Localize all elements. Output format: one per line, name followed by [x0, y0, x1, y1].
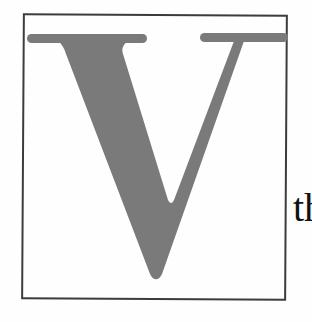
document-page: th: [0, 0, 312, 322]
body-text-fragment: th: [293, 188, 312, 228]
drop-cap-letter-v: [0, 0, 312, 322]
